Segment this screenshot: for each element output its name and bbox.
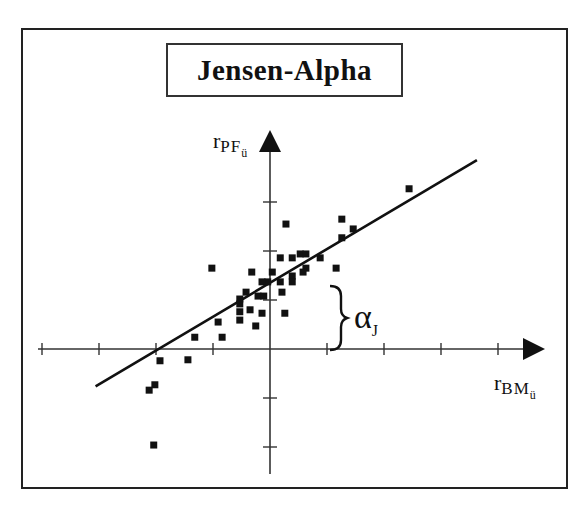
data-point <box>252 322 259 329</box>
jensen-alpha-label: αJ <box>354 298 379 336</box>
x-axis-label: rBMü <box>494 370 536 396</box>
title-box: Jensen-Alpha <box>166 43 403 97</box>
regression-line <box>96 160 477 386</box>
data-point <box>406 185 413 192</box>
data-point <box>146 387 153 394</box>
data-point <box>260 293 267 300</box>
data-point <box>150 442 157 449</box>
chart-title: Jensen-Alpha <box>197 54 372 87</box>
data-point <box>338 216 345 223</box>
data-point <box>236 308 243 315</box>
data-point <box>247 306 254 313</box>
data-point <box>208 265 215 272</box>
data-point <box>333 265 340 272</box>
data-point <box>282 221 289 228</box>
data-point <box>317 254 324 261</box>
data-point <box>269 269 276 276</box>
x-axis-arrow-icon <box>523 338 545 360</box>
data-point <box>300 269 307 276</box>
data-point <box>259 310 266 317</box>
data-point <box>219 334 226 341</box>
data-point <box>350 225 357 232</box>
data-point <box>236 317 243 324</box>
data-point <box>281 310 288 317</box>
data-point <box>277 278 284 285</box>
data-point <box>215 319 222 326</box>
data-point <box>302 250 309 257</box>
y-axis-arrow-icon <box>259 130 281 152</box>
data-point <box>243 289 250 296</box>
data-point <box>236 300 243 307</box>
data-point <box>248 269 255 276</box>
data-point <box>278 289 285 296</box>
data-point <box>289 278 296 285</box>
alpha-brace-icon <box>330 286 347 350</box>
data-point <box>338 234 345 241</box>
data-point <box>184 356 191 363</box>
y-axis-label: rPFü <box>213 128 247 154</box>
data-point <box>289 254 296 261</box>
data-point <box>156 357 163 364</box>
data-point <box>277 254 284 261</box>
data-point <box>191 334 198 341</box>
data-point <box>259 278 266 285</box>
axes <box>38 130 545 474</box>
